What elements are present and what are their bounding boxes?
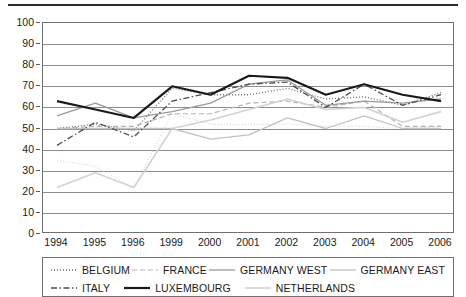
x-axis-tick-label: 1994 — [44, 236, 67, 248]
legend-row-2: ITALYLUXEMBOURGNETHERLANDS — [49, 279, 447, 297]
y-axis-tick-mark — [36, 191, 40, 192]
series-line-belgium-low — [57, 114, 441, 188]
legend-item-germany-west[interactable]: GERMANY WEST — [209, 264, 327, 276]
y-axis-tick-label: 30 — [22, 165, 34, 175]
y-axis-tick-label: 90 — [22, 38, 34, 48]
x-axis-tick-label: 2003 — [313, 236, 336, 248]
x-axis-tick-label: 2002 — [275, 236, 298, 248]
legend-item-belgium[interactable]: BELGIUM — [51, 264, 130, 276]
y-axis-tick-mark — [36, 22, 40, 23]
legend-line-swatch — [330, 265, 356, 275]
y-axis-tick-mark — [36, 149, 40, 150]
legend-line-swatch — [209, 265, 235, 275]
x-axis-tick-label: 2005 — [390, 236, 413, 248]
x-axis-tick-label: 2001 — [236, 236, 259, 248]
series-lines — [43, 23, 455, 234]
legend-label: GERMANY WEST — [240, 264, 327, 276]
y-axis-tick-label: 20 — [22, 186, 34, 196]
legend-row-1: BELGIUMFRANCEGERMANY WESTGERMANY EAST — [49, 261, 447, 279]
x-axis-tick-label: 2006 — [428, 236, 451, 248]
y-axis-tick-label: 70 — [22, 80, 34, 90]
y-axis-tick-label: 60 — [22, 101, 34, 111]
y-axis-tick-label: 80 — [22, 59, 34, 69]
x-axis-tick-label: 1999 — [160, 236, 183, 248]
legend-label: GERMANY EAST — [361, 264, 445, 276]
legend-label: BELGIUM — [82, 264, 130, 276]
legend-item-netherlands[interactable]: NETHERLANDS — [245, 282, 355, 294]
line-chart: 1009080706050403020100 19941995199619992… — [0, 10, 466, 297]
series-line-germany-west — [57, 80, 441, 118]
x-axis-tick-label: 1995 — [83, 236, 106, 248]
x-axis-tick-label: 1996 — [121, 236, 144, 248]
chart-legend: BELGIUMFRANCEGERMANY WESTGERMANY EAST IT… — [42, 257, 454, 297]
y-axis-tick-label: 100 — [16, 17, 34, 27]
legend-label: ITALY — [82, 282, 110, 294]
y-axis-tick-label: 50 — [22, 123, 34, 133]
series-line-netherlands — [57, 99, 441, 188]
y-axis-tick-label: 0 — [28, 228, 34, 238]
legend-label: FRANCE — [163, 264, 207, 276]
legend-item-germany-east[interactable]: GERMANY EAST — [330, 264, 445, 276]
series-line-luxembourg — [57, 76, 441, 118]
y-axis-tick-label: 40 — [22, 144, 34, 154]
y-axis-tick-mark — [36, 233, 40, 234]
y-axis-tick-mark — [36, 85, 40, 86]
y-axis-tick-label: 10 — [22, 207, 34, 217]
legend-line-swatch — [51, 265, 77, 275]
legend-line-swatch — [245, 283, 271, 293]
legend-line-swatch — [124, 283, 150, 293]
y-axis-tick-mark — [36, 170, 40, 171]
x-axis: 1994199519961999200020012002200320042005… — [42, 236, 454, 252]
legend-item-italy[interactable]: ITALY — [51, 282, 110, 294]
legend-label: LUXEMBOURG — [155, 282, 231, 294]
plot-area — [42, 22, 454, 233]
legend-item-france[interactable]: FRANCE — [132, 264, 207, 276]
legend-line-swatch — [51, 283, 77, 293]
x-axis-tick-label: 2000 — [198, 236, 221, 248]
y-axis-tick-mark — [36, 106, 40, 107]
y-axis-tick-mark — [36, 43, 40, 44]
y-axis-tick-mark — [36, 64, 40, 65]
legend-item-luxembourg[interactable]: LUXEMBOURG — [124, 282, 231, 294]
x-axis-tick-label: 2004 — [352, 236, 375, 248]
y-axis-tick-mark — [36, 128, 40, 129]
legend-line-swatch — [132, 265, 158, 275]
y-axis-tick-mark — [36, 212, 40, 213]
legend-label: NETHERLANDS — [276, 282, 355, 294]
y-axis: 1009080706050403020100 — [0, 22, 40, 233]
top-divider — [8, 4, 458, 6]
